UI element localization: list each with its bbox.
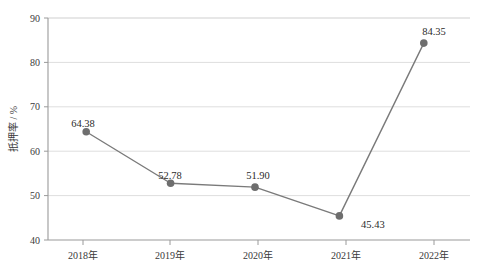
data-point-2022年 [420, 39, 428, 47]
data-label-2021: 45.43 [361, 219, 385, 230]
y-axis-tick-labels: 90 80 70 60 50 40 [30, 13, 40, 246]
y-tick-label-40: 40 [30, 235, 40, 246]
line-chart: 90 80 70 60 50 40 抵押率 / % 2018年 2019年 20… [0, 0, 487, 277]
data-point-2018年 [82, 128, 90, 136]
data-point-2021年 [336, 212, 344, 220]
y-tick-label-90: 90 [30, 13, 40, 24]
x-tick-label-2019: 2019年 [155, 249, 185, 261]
plot-area-background [48, 18, 470, 240]
data-label-2020: 51.90 [246, 170, 270, 181]
y-axis-ticks [44, 18, 48, 240]
y-tick-label-60: 60 [30, 146, 40, 157]
x-tick-label-2018: 2018年 [68, 249, 98, 261]
x-axis-tick-labels: 2018年 2019年 2020年 2021年 2022年 [68, 249, 449, 261]
x-tick-label-2022: 2022年 [419, 249, 449, 261]
y-axis-title: 抵押率 / % [7, 106, 19, 152]
y-tick-label-50: 50 [30, 190, 40, 201]
x-tick-label-2021: 2021年 [331, 249, 361, 261]
y-tick-label-80: 80 [30, 57, 40, 68]
x-tick-label-2020: 2020年 [243, 249, 273, 261]
chart-container: 90 80 70 60 50 40 抵押率 / % 2018年 2019年 20… [0, 0, 487, 277]
data-label-2019: 52.78 [158, 170, 182, 181]
data-label-2018: 64.38 [71, 118, 95, 129]
y-tick-label-70: 70 [30, 101, 40, 112]
data-label-2022: 84.35 [422, 26, 446, 37]
data-point-2020年 [251, 183, 259, 191]
x-axis-ticks [83, 240, 434, 245]
